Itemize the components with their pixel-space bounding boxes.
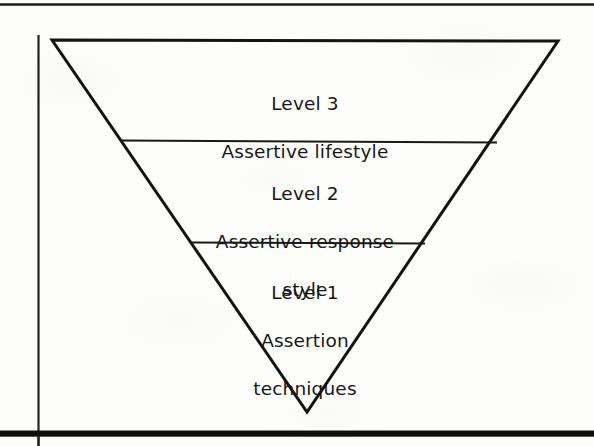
- level-1-heading: Level 1: [180, 281, 430, 305]
- level-1-description-line-1: Assertion: [180, 329, 430, 353]
- bottom-thick-bar: [0, 431, 594, 437]
- level-2-description-line-1: Assertive response: [160, 230, 450, 254]
- level-2-heading: Level 2: [160, 182, 450, 206]
- level-1-description-line-2: techniques: [180, 377, 430, 401]
- level-1-label-block: Level 1 Assertion techniques: [180, 257, 430, 425]
- figure-page: Level 3 Assertive lifestyle Level 2 Asse…: [0, 0, 594, 446]
- level-3-heading: Level 3: [140, 92, 470, 116]
